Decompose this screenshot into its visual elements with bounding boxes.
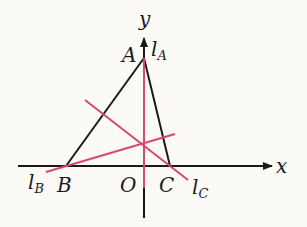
vertex-C-label: C <box>159 173 174 197</box>
vertex-B-label: B <box>56 173 72 197</box>
altitude-lC <box>85 100 188 180</box>
x-axis-label: x <box>276 154 287 178</box>
altitude-lA-label: lA <box>151 37 167 63</box>
altitude-lC-label: lC <box>192 175 208 201</box>
vertex-A-label: A <box>120 43 136 67</box>
y-axis-label: y <box>138 7 151 31</box>
triangle-altitudes-diagram: y x O A B C lA lB lC <box>0 0 307 227</box>
altitude-lB-label: lB <box>28 170 44 196</box>
origin-label: O <box>120 173 136 197</box>
